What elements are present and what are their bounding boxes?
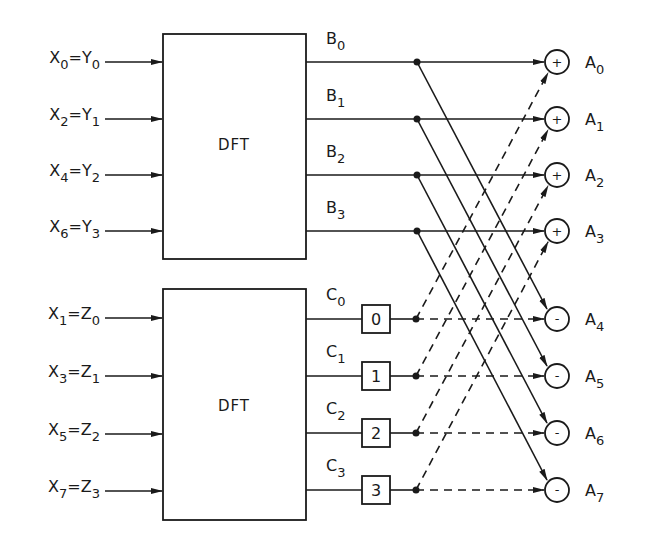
svg-text:B2: B2 — [326, 142, 345, 166]
svg-text:C2: C2 — [326, 399, 345, 423]
svg-text:X2=Y1: X2=Y1 — [49, 105, 100, 129]
svg-text:A2: A2 — [585, 166, 604, 190]
svg-text:+: + — [552, 112, 563, 127]
svg-text:C3: C3 — [326, 456, 345, 480]
adder-plus: + A1 — [545, 107, 604, 134]
input-row: X5=Z2 — [48, 420, 162, 444]
adder-plus: + A2 — [545, 163, 604, 190]
svg-text:B3: B3 — [326, 198, 345, 222]
twiddle-boxes: 0 1 2 3 — [362, 305, 416, 504]
svg-text:X4=Y2: X4=Y2 — [49, 161, 100, 185]
odd-inputs: X1=Z0 X3=Z1 X5=Z2 X7=Z3 — [48, 304, 162, 501]
svg-text:A5: A5 — [585, 367, 604, 391]
twiddle-box: 3 — [362, 476, 416, 504]
svg-text:A0: A0 — [585, 53, 604, 77]
svg-text:C0: C0 — [326, 285, 345, 309]
input-row: X6=Y3 — [49, 217, 162, 241]
even-outputs: B0 B1 B2 B3 — [306, 29, 544, 231]
adders: + A0 + A1 + A2 + A3 - A4 - A5 — [545, 50, 604, 505]
svg-text:A7: A7 — [585, 481, 604, 505]
solid-cross-links — [417, 62, 547, 480]
svg-text:2: 2 — [371, 424, 381, 443]
dft-label: DFT — [218, 397, 250, 415]
svg-text:X0=Y0: X0=Y0 — [49, 48, 100, 72]
adder-plus: + A0 — [545, 50, 604, 77]
svg-text:X7=Z3: X7=Z3 — [48, 477, 100, 501]
dft-block-even: DFT — [163, 34, 306, 259]
svg-text:X6=Y3: X6=Y3 — [49, 217, 100, 241]
dashed-cross-links — [416, 73, 548, 490]
svg-text:A3: A3 — [585, 222, 604, 246]
svg-text:+: + — [552, 55, 563, 70]
adder-minus: - A4 — [545, 307, 604, 334]
twiddle-box: 2 — [362, 419, 416, 447]
svg-text:X3=Z1: X3=Z1 — [48, 362, 100, 386]
odd-outputs: C0 C1 C2 C3 — [306, 285, 362, 490]
svg-text:3: 3 — [371, 481, 381, 500]
svg-text:X1=Z0: X1=Z0 — [48, 304, 100, 328]
input-row: X7=Z3 — [48, 477, 162, 501]
dashed-direct-links — [416, 319, 544, 490]
svg-text:-: - — [555, 368, 560, 383]
input-row: X3=Z1 — [48, 362, 162, 386]
twiddle-box: 1 — [362, 362, 416, 390]
svg-text:B1: B1 — [326, 86, 345, 110]
fft-butterfly-diagram: DFT DFT X0=Y0 X2=Y1 X4=Y2 X6=Y3 — [0, 0, 647, 544]
svg-text:-: - — [555, 311, 560, 326]
input-row: X1=Z0 — [48, 304, 162, 328]
even-inputs: X0=Y0 X2=Y1 X4=Y2 X6=Y3 — [49, 48, 162, 241]
svg-text:C1: C1 — [326, 342, 345, 366]
dft-block-odd: DFT — [163, 289, 306, 520]
twiddle-box: 0 — [362, 305, 416, 333]
svg-text:A1: A1 — [585, 110, 604, 134]
svg-text:B0: B0 — [326, 29, 345, 53]
svg-text:+: + — [552, 168, 563, 183]
input-row: X2=Y1 — [49, 105, 162, 129]
svg-text:0: 0 — [371, 310, 381, 329]
svg-text:-: - — [555, 482, 560, 497]
adder-minus: - A7 — [545, 478, 604, 505]
adder-minus: - A5 — [545, 364, 604, 391]
input-row: X4=Y2 — [49, 161, 162, 185]
svg-text:+: + — [552, 224, 563, 239]
svg-text:A4: A4 — [585, 310, 604, 334]
dft-label: DFT — [218, 136, 250, 154]
svg-text:X5=Z2: X5=Z2 — [48, 420, 100, 444]
svg-text:A6: A6 — [585, 424, 604, 448]
svg-text:-: - — [555, 425, 560, 440]
input-row: X0=Y0 — [49, 48, 162, 72]
svg-text:1: 1 — [371, 367, 381, 386]
adder-minus: - A6 — [545, 421, 604, 448]
adder-plus: + A3 — [545, 219, 604, 246]
